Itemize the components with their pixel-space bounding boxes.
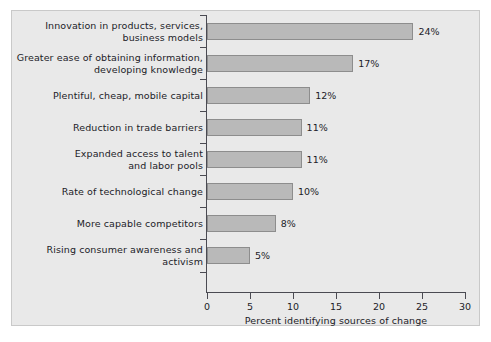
y-axis-tick (200, 143, 206, 144)
x-axis-title: Percent identifying sources of change (206, 315, 466, 326)
bar-value-label: 8% (281, 215, 296, 232)
category-label: Rising consumer awareness and activism (3, 244, 203, 267)
bar-value-label: 24% (418, 23, 439, 40)
category-label: Greater ease of obtaining information, d… (3, 52, 203, 75)
y-axis-tick (200, 47, 206, 48)
bar-value-label: 10% (298, 183, 319, 200)
x-axis-tick-label: 10 (287, 301, 299, 312)
x-axis-tick (379, 293, 380, 299)
x-axis-tick (207, 293, 208, 299)
y-axis-tick (200, 175, 206, 176)
x-axis-tick (336, 293, 337, 299)
bar-value-label: 11% (307, 151, 328, 168)
bar (207, 87, 310, 104)
bar (207, 247, 250, 264)
y-axis-tick (200, 15, 206, 16)
x-axis-tick (465, 293, 466, 299)
y-axis-tick (200, 111, 206, 112)
chart-panel: Innovation in products, services, busine… (11, 10, 480, 326)
bar-value-label: 12% (315, 87, 336, 104)
figure: Innovation in products, services, busine… (0, 0, 491, 342)
bar (207, 215, 276, 232)
y-axis-tick (200, 239, 206, 240)
category-label: Plentiful, cheap, mobile capital (3, 90, 203, 102)
category-label: Innovation in products, services, busine… (3, 20, 203, 43)
category-label: Expanded access to talent and labor pool… (3, 148, 203, 171)
x-axis-tick (293, 293, 294, 299)
x-axis-tick-label: 15 (330, 301, 342, 312)
x-axis-tick-label: 25 (416, 301, 428, 312)
bar-value-label: 17% (358, 55, 379, 72)
bar (207, 119, 302, 136)
y-axis-tick (200, 79, 206, 80)
bar (207, 23, 413, 40)
x-axis-tick (422, 293, 423, 299)
category-label: More capable competitors (3, 218, 203, 230)
x-axis-tick-label: 20 (373, 301, 385, 312)
x-axis-tick-label: 0 (204, 301, 210, 312)
x-axis-tick-label: 5 (247, 301, 253, 312)
bar (207, 151, 302, 168)
category-label: Reduction in trade barriers (3, 122, 203, 134)
bar (207, 183, 293, 200)
category-label: Rate of technological change (3, 186, 203, 198)
bar (207, 55, 353, 72)
y-axis-tick (200, 207, 206, 208)
x-axis-tick (250, 293, 251, 299)
bar-value-label: 11% (307, 119, 328, 136)
bar-value-label: 5% (255, 247, 270, 264)
plot-area: Innovation in products, services, busine… (12, 11, 481, 327)
x-axis-tick-label: 30 (459, 301, 471, 312)
y-axis-tick (200, 272, 206, 273)
